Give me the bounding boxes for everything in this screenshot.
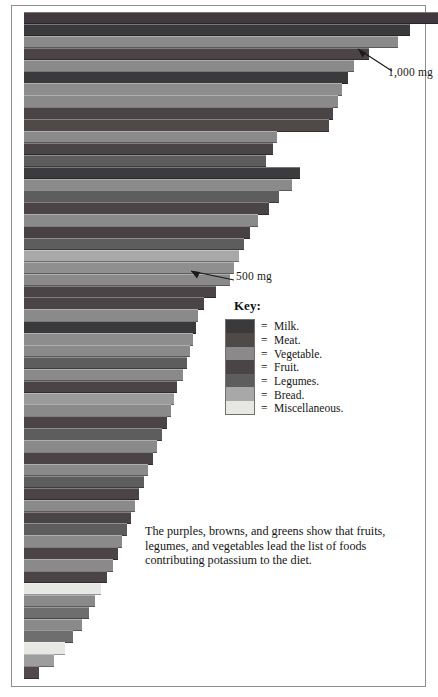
key-row-6: =Miscellaneous. — [261, 402, 343, 416]
key-label-text: Legumes. — [274, 376, 319, 388]
bar-39 — [24, 476, 144, 488]
bar-1 — [24, 24, 410, 36]
key-swatch-band-6 — [226, 401, 254, 414]
figure-page: 1,000 mg 500 mg Key: =Milk.=Meat.=Vegeta… — [0, 0, 438, 697]
bar-fill — [24, 143, 273, 155]
annotation-label-1000mg: 1,000 mg — [388, 66, 433, 78]
bar-fill — [24, 404, 171, 416]
bar-fill — [24, 642, 65, 654]
bar-4 — [24, 60, 354, 72]
bar-35 — [24, 428, 162, 440]
key-row-3: =Fruit. — [261, 361, 343, 375]
bar-47 — [24, 571, 107, 583]
bar-fill — [24, 464, 148, 476]
key-swatch-band-5 — [226, 387, 254, 400]
bar-8 — [24, 107, 333, 119]
bar-37 — [24, 452, 153, 464]
bar-fill — [24, 214, 258, 226]
key-equals-glyph: = — [261, 349, 274, 361]
bar-28 — [24, 345, 190, 357]
leader-line-500mg — [184, 268, 236, 286]
bar-fill — [24, 500, 135, 512]
bar-fill — [24, 36, 398, 48]
bar-fill — [24, 333, 193, 345]
key-label-text: Bread. — [274, 390, 304, 402]
key-equals-glyph: = — [261, 390, 274, 402]
bar-fill — [24, 369, 183, 381]
bar-10 — [24, 131, 277, 143]
key-row-0: =Milk. — [261, 320, 343, 334]
bar-53 — [24, 642, 65, 654]
bar-20 — [24, 250, 239, 262]
key-swatch-band-2 — [226, 347, 254, 360]
bar-fill — [24, 131, 277, 143]
bar-13 — [24, 167, 300, 179]
bar-fill — [24, 202, 269, 214]
bar-25 — [24, 309, 198, 321]
key-label-text: Miscellaneous. — [274, 403, 343, 415]
bar-3 — [24, 48, 369, 60]
bar-fill — [24, 179, 292, 191]
bar-45 — [24, 547, 118, 559]
bar-14 — [24, 179, 292, 191]
bar-fill — [24, 95, 338, 107]
bar-fill — [24, 595, 95, 607]
key-label-text: Fruit. — [274, 362, 299, 374]
bar-fill — [24, 12, 438, 24]
bar-30 — [24, 369, 183, 381]
bar-19 — [24, 238, 244, 250]
key-swatch-band-4 — [226, 374, 254, 387]
bar-55 — [24, 666, 39, 678]
bar-fill — [24, 226, 250, 238]
bar-fill — [24, 452, 153, 464]
bar-fill — [24, 654, 54, 666]
bar-41 — [24, 500, 135, 512]
bar-fill — [24, 71, 348, 83]
bar-46 — [24, 559, 113, 571]
key-equals-glyph: = — [261, 403, 274, 415]
key-equals-glyph: = — [261, 321, 274, 333]
key-row-4: =Legumes. — [261, 375, 343, 389]
annotation-label-500mg: 500 mg — [236, 270, 272, 282]
bar-5 — [24, 71, 348, 83]
bar-34 — [24, 416, 167, 428]
bar-fill — [24, 416, 167, 428]
bar-9 — [24, 119, 329, 131]
bar-fill — [24, 48, 369, 60]
bar-fill — [24, 24, 410, 36]
bar-7 — [24, 95, 338, 107]
bar-44 — [24, 535, 122, 547]
bar-54 — [24, 654, 54, 666]
key-color-swatch — [225, 319, 255, 415]
bar-11 — [24, 143, 273, 155]
bar-26 — [24, 321, 196, 333]
bar-fill — [24, 83, 342, 95]
figure-frame: 1,000 mg 500 mg Key: =Milk.=Meat.=Vegeta… — [11, 5, 426, 687]
bar-fill — [24, 512, 131, 524]
figure-caption-text: The purples, browns, and greens show tha… — [145, 524, 403, 568]
bar-15 — [24, 190, 279, 202]
bar-fill — [24, 60, 354, 72]
bar-32 — [24, 393, 174, 405]
bar-fill — [24, 309, 198, 321]
key-swatch-band-0 — [226, 320, 254, 333]
bar-0 — [24, 12, 438, 24]
bar-fill — [24, 119, 329, 131]
bar-fill — [24, 238, 244, 250]
bar-40 — [24, 488, 139, 500]
bar-36 — [24, 440, 157, 452]
bar-18 — [24, 226, 250, 238]
bar-33 — [24, 404, 171, 416]
bar-51 — [24, 619, 82, 631]
bar-fill — [24, 321, 196, 333]
bar-23 — [24, 286, 216, 298]
key-title: Key: — [234, 298, 343, 314]
bar-43 — [24, 523, 127, 535]
bar-52 — [24, 630, 73, 642]
bar-fill — [24, 381, 177, 393]
bar-fill — [24, 583, 101, 595]
bar-29 — [24, 357, 187, 369]
bar-fill — [24, 535, 122, 547]
bar-fill — [24, 523, 127, 535]
bar-17 — [24, 214, 258, 226]
